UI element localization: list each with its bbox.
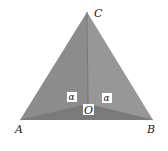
pyramid-diagram: α α O C A B (0, 0, 168, 151)
alpha-right-label: α (104, 93, 110, 103)
face-aoc (20, 12, 88, 120)
vertex-c-label: C (94, 7, 103, 20)
alpha-left-label: α (69, 92, 75, 102)
face-boc (87, 12, 153, 120)
vertex-o-label: O (84, 104, 93, 117)
vertex-a-label: A (14, 123, 23, 136)
vertex-b-label: B (146, 123, 155, 136)
